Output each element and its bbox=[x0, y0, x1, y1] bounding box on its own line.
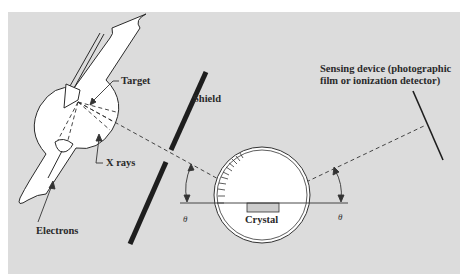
label-shield: Shield bbox=[193, 93, 221, 104]
label-sensing-line2: film or ionization detector) bbox=[320, 75, 441, 87]
x-ray-diffraction-diagram: Target X rays Electrons Shield Crystal S… bbox=[0, 0, 472, 280]
label-theta-left: θ bbox=[183, 214, 188, 224]
label-electrons: Electrons bbox=[36, 225, 78, 236]
label-crystal: Crystal bbox=[245, 214, 278, 225]
label-x-rays: X rays bbox=[106, 157, 135, 168]
label-target: Target bbox=[121, 75, 151, 86]
label-theta-right: θ bbox=[338, 212, 343, 222]
crystal bbox=[247, 203, 279, 212]
label-sensing-line1: Sensing device (photographic bbox=[320, 63, 452, 75]
goniometer-circle bbox=[214, 147, 310, 243]
